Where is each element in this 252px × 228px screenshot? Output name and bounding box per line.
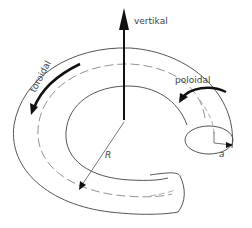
torus-diagram: a R vertikal toroidal poloidal [0,0,252,228]
toroidal-label: toroidal [28,59,53,94]
major-radius-line [80,122,124,188]
major-radius-label: R [105,150,111,160]
vertical-label: vertikal [134,16,168,26]
minor-radius-label: a [219,149,225,159]
vertical-arrowhead [119,8,129,30]
cross-section-guide [200,100,214,134]
torus-lower-end [150,173,184,212]
cross-section-upper [185,126,233,154]
major-radius-arrowhead [79,181,86,190]
torus-lower-centerline [150,190,175,196]
poloidal-label: poloidal [175,75,210,85]
torus-inner-edge [66,86,187,180]
